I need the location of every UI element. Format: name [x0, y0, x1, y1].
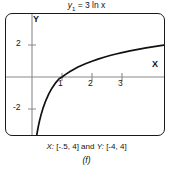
y-tick-label-negative-2: -2 — [13, 103, 21, 112]
plot-canvas — [6, 14, 165, 136]
figure-label: (f) — [0, 155, 173, 166]
range-x-label: X: — [46, 142, 54, 151]
range-y-value: [-4, 4] — [104, 142, 127, 151]
y-axis-label: Y — [33, 15, 39, 24]
y-tick-label-2: 2 — [16, 39, 21, 48]
x-tick-label-3: 3 — [118, 79, 123, 88]
range-y-label: Y: — [97, 142, 104, 151]
plot-frame — [5, 13, 165, 136]
range-conjunction: and — [81, 142, 97, 151]
range-caption: X: [-.5, 4] and Y: [-4, 4] — [0, 141, 173, 152]
range-x-value: [-.5, 4] — [54, 142, 81, 151]
x-axis-label: X — [152, 60, 158, 69]
equation-expression: = 3 ln x — [75, 0, 105, 10]
log-curve — [36, 45, 165, 136]
graph-figure: y1 = 3 ln x Y X 2 -2 1 2 3 X: [-.5, 4] a… — [0, 0, 173, 174]
x-tick-label-1: 1 — [58, 79, 63, 88]
x-tick-label-2: 2 — [88, 79, 93, 88]
